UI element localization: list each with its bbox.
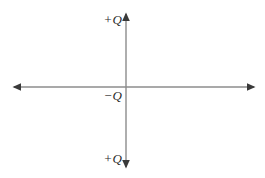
- axes-canvas: [0, 0, 265, 178]
- arrowhead-up-icon: [122, 13, 130, 22]
- charge-axis-figure: +Q −Q +Q: [0, 0, 265, 178]
- arrowhead-right-icon: [247, 83, 256, 91]
- label-top-positive-charge: +Q: [103, 13, 122, 26]
- arrowhead-down-icon: [122, 160, 130, 169]
- arrowhead-left-icon: [13, 83, 22, 91]
- label-bottom-positive-charge: +Q: [103, 152, 122, 165]
- label-origin-negative-charge: −Q: [103, 89, 122, 102]
